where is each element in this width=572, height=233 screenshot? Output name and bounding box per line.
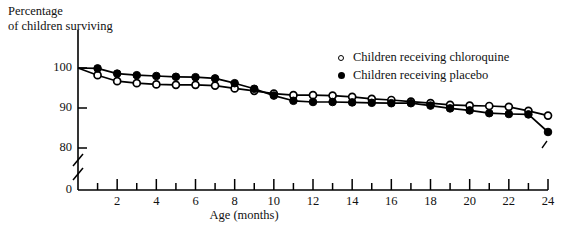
x-tick-label: 20 [450, 194, 490, 209]
data-point [172, 81, 179, 88]
x-tick-label: 14 [332, 194, 372, 209]
data-point [329, 98, 337, 106]
data-point [133, 71, 141, 79]
data-point [172, 73, 180, 81]
data-point [466, 107, 474, 115]
y-tick-label: 90 [60, 100, 73, 115]
data-series [78, 65, 552, 148]
data-point [388, 99, 396, 107]
x-tick-label: 18 [411, 194, 451, 209]
y-tick-label: 80 [60, 140, 73, 155]
data-point [309, 98, 317, 106]
data-point [211, 75, 219, 83]
x-tick-label: 12 [293, 194, 333, 209]
x-tick-label: 6 [176, 194, 216, 209]
x-tick-label: 10 [254, 194, 294, 209]
data-point [270, 92, 278, 100]
data-point [505, 103, 512, 110]
data-point [231, 79, 239, 87]
x-tick-label: 8 [215, 194, 255, 209]
data-point [544, 128, 552, 136]
y-tick-label: 0 [66, 182, 72, 197]
data-point [192, 81, 199, 88]
data-point [114, 78, 121, 85]
data-point [486, 103, 493, 110]
data-point [94, 72, 101, 79]
data-point [153, 81, 160, 88]
data-point [348, 99, 356, 107]
x-tick-label: 22 [489, 194, 529, 209]
data-point [212, 82, 219, 89]
x-tick-label: 2 [97, 194, 137, 209]
chart-figure: Percentage of children surviving Childre… [0, 0, 572, 233]
data-point [446, 105, 454, 113]
data-point [192, 73, 200, 81]
x-axis-title: Age (months) [0, 208, 530, 223]
tail-break-mark [542, 141, 547, 148]
data-point [545, 112, 552, 119]
x-tick-label: 4 [136, 194, 176, 209]
data-point [505, 110, 513, 118]
data-point [290, 97, 298, 105]
data-point [525, 111, 533, 119]
data-point [368, 99, 376, 107]
data-point [250, 85, 258, 93]
data-point [485, 109, 493, 117]
data-point [113, 70, 121, 78]
data-point [427, 102, 435, 110]
data-point [94, 65, 102, 73]
y-tick-label: 100 [53, 60, 72, 75]
x-tick-label: 16 [371, 194, 411, 209]
data-point [133, 80, 140, 87]
data-point [153, 72, 161, 80]
axes [73, 30, 548, 190]
x-tick-label: 24 [528, 194, 568, 209]
data-point [310, 92, 317, 99]
data-point [407, 99, 415, 107]
